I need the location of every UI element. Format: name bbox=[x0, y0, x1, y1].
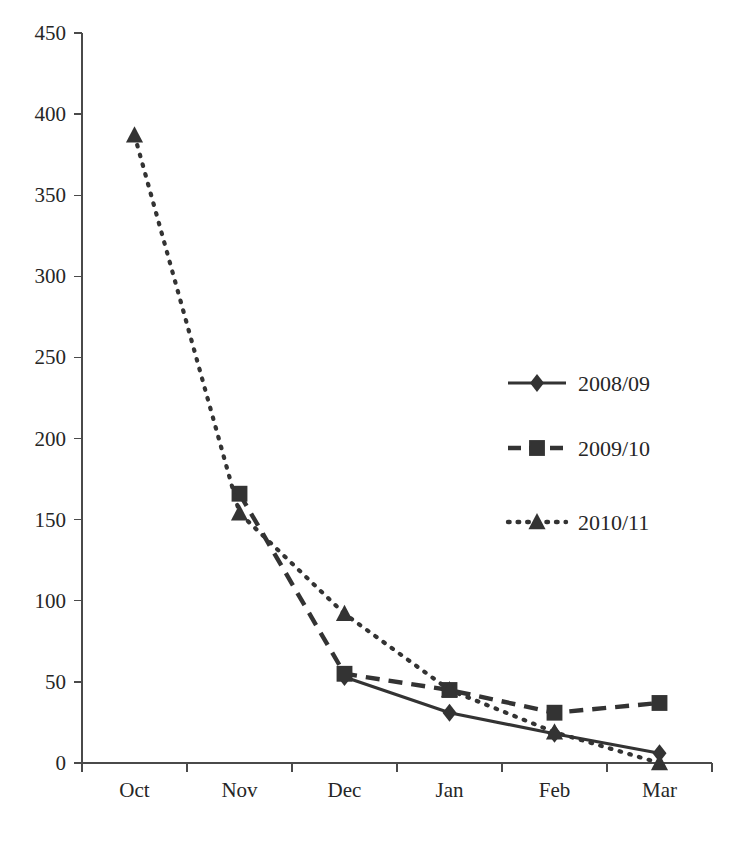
x-tick-label: Nov bbox=[221, 778, 258, 802]
series-2008-09 bbox=[337, 668, 666, 762]
marker-square bbox=[529, 440, 545, 456]
marker-triangle bbox=[231, 504, 248, 520]
marker-square bbox=[652, 695, 668, 711]
y-tick-label: 400 bbox=[35, 102, 67, 126]
legend-entry-2009-10[interactable]: 2009/10 bbox=[508, 436, 650, 461]
y-tick-label: 0 bbox=[56, 751, 67, 775]
chart-legend: 2008/092009/102010/11 bbox=[508, 371, 650, 535]
marker-triangle bbox=[126, 126, 143, 142]
x-tick-label: Dec bbox=[328, 778, 362, 802]
legend-entry-2010-11[interactable]: 2010/11 bbox=[508, 510, 649, 535]
y-tick-label: 350 bbox=[35, 183, 67, 207]
legend-label: 2008/09 bbox=[578, 371, 650, 396]
marker-diamond bbox=[530, 374, 544, 392]
legend-entry-2008-09[interactable]: 2008/09 bbox=[508, 371, 650, 396]
marker-triangle bbox=[336, 605, 353, 621]
y-tick-label: 450 bbox=[35, 21, 67, 45]
legend-label: 2010/11 bbox=[578, 510, 649, 535]
marker-square bbox=[337, 666, 353, 682]
marker-diamond bbox=[442, 704, 456, 722]
chart-figure: 050100150200250300350400450 OctNovDecJan… bbox=[0, 0, 740, 841]
y-tick-label: 100 bbox=[35, 589, 67, 613]
y-tick-label: 300 bbox=[35, 264, 67, 288]
marker-square bbox=[547, 705, 563, 721]
y-tick-label: 50 bbox=[45, 670, 66, 694]
y-tick-label: 150 bbox=[35, 508, 67, 532]
y-tick-label: 200 bbox=[35, 427, 67, 451]
series-line bbox=[345, 677, 660, 753]
y-axis: 050100150200250300350400450 bbox=[35, 21, 83, 775]
x-tick-label: Oct bbox=[119, 778, 149, 802]
x-tick-label: Jan bbox=[436, 778, 464, 802]
marker-triangle bbox=[651, 754, 668, 770]
x-tick-label: Mar bbox=[642, 778, 677, 802]
marker-triangle bbox=[528, 513, 545, 529]
legend-label: 2009/10 bbox=[578, 436, 650, 461]
x-tick-label: Feb bbox=[539, 778, 571, 802]
y-tick-label: 250 bbox=[35, 345, 67, 369]
line-chart: 050100150200250300350400450 OctNovDecJan… bbox=[0, 0, 740, 841]
x-axis: OctNovDecJanFebMar bbox=[82, 763, 712, 802]
